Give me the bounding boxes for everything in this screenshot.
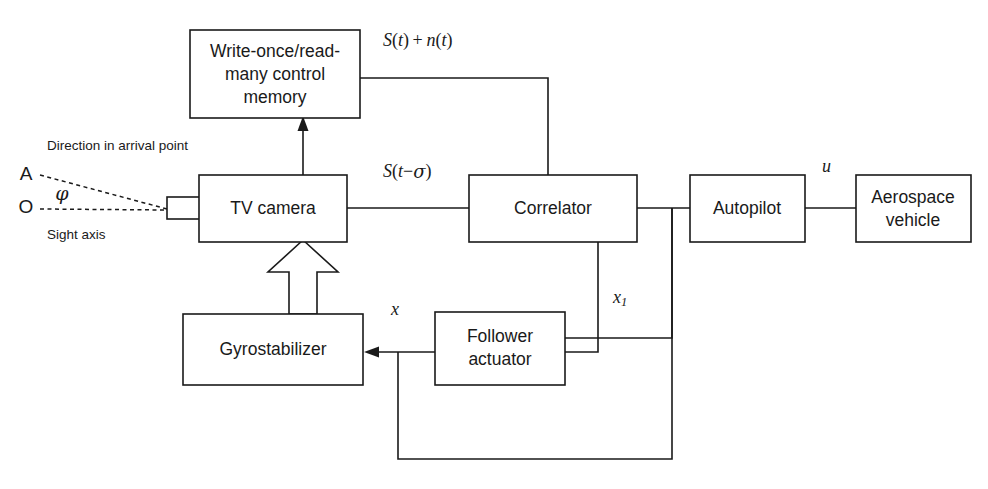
arrowhead-follower-to-gyrostabilizer <box>364 347 379 358</box>
box-write-once-read-many-control-memory[interactable]: Write-once/read- many control memory <box>190 30 360 118</box>
box-gyrostabilizer[interactable]: Gyrostabilizer <box>183 314 363 385</box>
block-arrow-gyrostabilizer-to-tvcamera <box>268 240 338 314</box>
box-label-memory-line2: many control <box>225 64 325 84</box>
annotation-direction-in-arrival-point: Direction in arrival point <box>47 138 188 153</box>
box-label-correlator: Correlator <box>514 198 592 218</box>
box-rect-aerospace-vehicle <box>856 175 971 242</box>
box-label-aerospace-vehicle-line1: Aerospace <box>871 187 955 207</box>
sight-line-sight-axis <box>40 209 167 210</box>
signal-label-u: u <box>822 156 831 176</box>
box-autopilot[interactable]: Autopilot <box>690 175 805 242</box>
signal-label-s-delayed: S(t−σ) <box>383 161 431 182</box>
signal-label-s-plus-n: S(t) + n(t) <box>383 30 452 51</box>
box-label-tv-camera: TV camera <box>230 198 316 218</box>
box-label-follower-actuator-line1: Follower <box>467 326 533 346</box>
box-label-follower-actuator-line2: actuator <box>468 349 531 369</box>
box-follower-actuator[interactable]: Follower actuator <box>435 312 565 385</box>
lens-rect-tv-camera <box>167 197 200 219</box>
box-label-memory-line1: Write-once/read- <box>210 41 340 61</box>
annotation-sight-axis: Sight axis <box>47 227 106 242</box>
annotation-point-a: A <box>20 163 33 184</box>
connector-correlator-to-follower <box>565 242 598 352</box>
block-diagram-canvas: Write-once/read- many control memory TV … <box>0 0 988 489</box>
box-label-autopilot: Autopilot <box>713 198 781 218</box>
signal-label-x1: x1 <box>612 287 627 308</box>
box-label-aerospace-vehicle-line2: vehicle <box>886 210 940 230</box>
box-tv-camera[interactable]: TV camera <box>167 175 347 242</box>
box-label-gyrostabilizer: Gyrostabilizer <box>220 339 327 359</box>
box-label-memory-line3: memory <box>243 87 306 107</box>
annotation-angle-phi: φ <box>55 182 69 204</box>
box-aerospace-vehicle[interactable]: Aerospace vehicle <box>856 175 971 242</box>
signal-label-x: x <box>390 299 399 319</box>
box-correlator[interactable]: Correlator <box>469 175 637 242</box>
annotation-point-o: O <box>19 196 34 217</box>
diagram-svg: Write-once/read- many control memory TV … <box>0 0 988 489</box>
